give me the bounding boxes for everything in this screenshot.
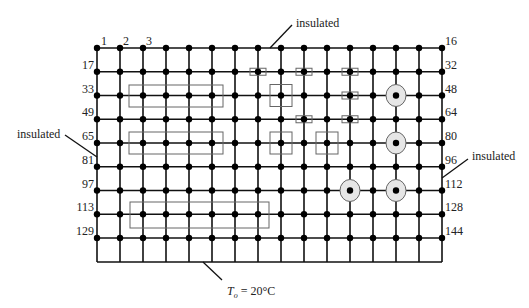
- grid-node: [324, 45, 330, 51]
- grid-node: [347, 187, 353, 193]
- left-insulated-label: insulated: [17, 127, 60, 141]
- grid-node: [209, 69, 215, 75]
- grid-node: [94, 187, 100, 193]
- grid-node: [186, 187, 192, 193]
- left-node-number: 17: [82, 58, 94, 72]
- grid-node: [140, 92, 146, 98]
- grid-node: [347, 92, 353, 98]
- grid-node: [186, 92, 192, 98]
- grid-node: [278, 140, 284, 146]
- grid-node: [94, 69, 100, 75]
- right-node-number: 16: [445, 34, 457, 48]
- grid-node: [140, 187, 146, 193]
- grid-node: [301, 69, 307, 75]
- grid-node: [94, 45, 100, 51]
- grid-node: [255, 187, 261, 193]
- grid-node: [278, 92, 284, 98]
- grid-node: [209, 140, 215, 146]
- grid-node: [324, 187, 330, 193]
- grid-node: [370, 164, 376, 170]
- grid-node: [255, 92, 261, 98]
- left-node-number: 33: [82, 82, 94, 96]
- grid-node: [94, 116, 100, 122]
- grid-node: [416, 187, 422, 193]
- grid-node: [232, 116, 238, 122]
- grid-node: [301, 45, 307, 51]
- right-node-number: 144: [445, 224, 463, 238]
- grid-node: [370, 69, 376, 75]
- grid-node: [416, 235, 422, 241]
- grid-node: [416, 92, 422, 98]
- grid-node: [416, 69, 422, 75]
- grid-node: [186, 69, 192, 75]
- grid-node: [163, 92, 169, 98]
- grid-node: [278, 69, 284, 75]
- left-node-number: 97: [82, 177, 94, 191]
- left-node-number: 129: [76, 224, 94, 238]
- grid-node: [186, 164, 192, 170]
- right-node-number: 128: [445, 200, 463, 214]
- grid-node: [163, 235, 169, 241]
- grid-node: [140, 211, 146, 217]
- grid-node: [94, 235, 100, 241]
- grid-node: [186, 235, 192, 241]
- grid-node: [255, 69, 261, 75]
- right-insulated-label: insulated: [472, 149, 515, 163]
- grid-node: [370, 116, 376, 122]
- grid-node: [117, 164, 123, 170]
- grid-node: [324, 69, 330, 75]
- grid-node: [301, 187, 307, 193]
- grid-node: [393, 45, 399, 51]
- grid-node: [186, 45, 192, 51]
- grid-node: [347, 164, 353, 170]
- grid-node: [324, 116, 330, 122]
- node-grid-diagram: 1231733496581971131291632486480961121281…: [0, 0, 529, 308]
- bottom-temperature-leader: [203, 262, 222, 280]
- grid-node: [278, 211, 284, 217]
- grid-node: [370, 140, 376, 146]
- left-node-number: 49: [82, 105, 94, 119]
- grid-node: [393, 92, 399, 98]
- grid-node: [163, 187, 169, 193]
- grid-node: [140, 140, 146, 146]
- grid-node: [393, 164, 399, 170]
- grid-node: [209, 45, 215, 51]
- grid-node: [209, 116, 215, 122]
- grid-node: [209, 187, 215, 193]
- grid-node: [393, 140, 399, 146]
- top-insulated-leader: [270, 25, 292, 48]
- grid-node: [347, 211, 353, 217]
- grid-lines: [97, 48, 442, 262]
- grid-node: [255, 45, 261, 51]
- grid-node: [140, 116, 146, 122]
- grid-node: [209, 235, 215, 241]
- right-node-number: 48: [445, 82, 457, 96]
- grid-node: [370, 92, 376, 98]
- grid-node: [117, 187, 123, 193]
- grid-node: [163, 116, 169, 122]
- top-node-number: 2: [123, 34, 129, 48]
- right-node-number: 96: [445, 153, 457, 167]
- grid-node: [324, 164, 330, 170]
- grid-node: [324, 235, 330, 241]
- grid-node: [255, 164, 261, 170]
- grid-node: [209, 164, 215, 170]
- right-node-number: 64: [445, 105, 457, 119]
- grid-node: [186, 140, 192, 146]
- grid-node: [393, 187, 399, 193]
- grid-node: [347, 235, 353, 241]
- grid-node: [209, 211, 215, 217]
- grid-node: [301, 235, 307, 241]
- grid-node: [301, 164, 307, 170]
- grid-node: [347, 45, 353, 51]
- grid-node: [255, 140, 261, 146]
- left-node-number: 65: [82, 129, 94, 143]
- grid-node: [163, 69, 169, 75]
- grid-node: [278, 164, 284, 170]
- grid-node: [232, 45, 238, 51]
- grid-node: [117, 116, 123, 122]
- grid-node: [232, 187, 238, 193]
- grid-node: [209, 92, 215, 98]
- grid-node: [301, 92, 307, 98]
- grid-node: [347, 116, 353, 122]
